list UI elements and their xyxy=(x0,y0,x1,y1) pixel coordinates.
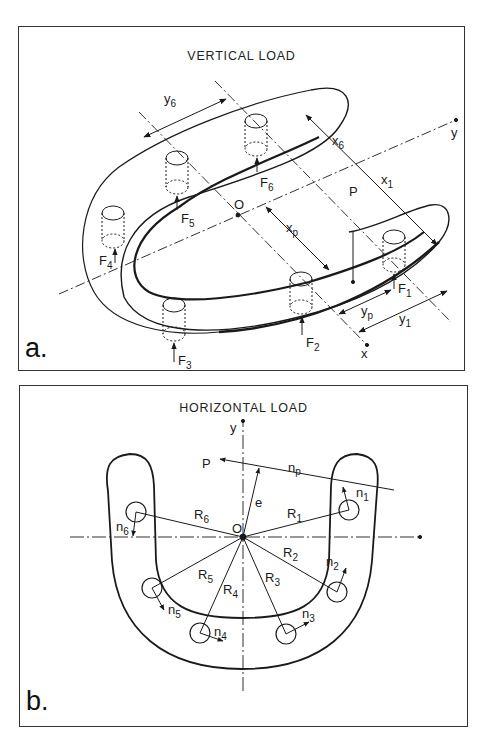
label-r2: R2 xyxy=(283,545,298,563)
label-origin: O xyxy=(234,197,244,212)
label-f6: F6 xyxy=(260,175,274,193)
label-n4: n4 xyxy=(214,624,227,642)
shoe-inner-edge xyxy=(134,137,424,299)
label-f4: F4 xyxy=(99,253,113,271)
label-r4: R4 xyxy=(223,582,238,600)
label-xp: xp xyxy=(286,220,299,238)
label-n6: n6 xyxy=(116,519,129,537)
label-p: P xyxy=(349,184,358,199)
shoe-outer-top xyxy=(83,90,311,333)
panel-b-letter: b. xyxy=(26,686,49,717)
normal-n1 xyxy=(343,487,349,510)
label-origin: O xyxy=(232,521,242,536)
label-r1: R1 xyxy=(287,506,302,524)
label-yp: yp xyxy=(361,303,374,321)
label-n3: n3 xyxy=(302,606,315,624)
label-f3: F3 xyxy=(178,353,192,371)
label-r5: R5 xyxy=(198,567,213,585)
label-p: P xyxy=(202,456,211,471)
dim-x1 xyxy=(371,179,437,245)
pin-4 xyxy=(102,206,124,248)
normal-n6 xyxy=(133,512,136,536)
vertical-load-diagram: y6 x6 x1 xp yp y1 P O y x F6 F5 F4 F3 F2… xyxy=(19,27,466,372)
dim-xp xyxy=(266,207,329,270)
origin-point xyxy=(236,213,240,217)
label-y-axis: y xyxy=(230,420,237,435)
f6-f1-line xyxy=(215,81,451,322)
pin-3 xyxy=(163,298,185,341)
pin-6 xyxy=(245,114,267,156)
horizontal-load-diagram: y P np e O R1 R2 R3 R4 R5 R6 n1 n2 n3 n4… xyxy=(20,386,469,728)
label-y6: y6 xyxy=(164,91,177,109)
label-f2: F2 xyxy=(306,335,320,353)
normal-n5 xyxy=(152,588,164,610)
label-r6: R6 xyxy=(194,507,209,525)
label-e: e xyxy=(255,495,262,510)
panel-a-letter: a. xyxy=(25,333,48,364)
load-line-np xyxy=(220,459,394,490)
radius-r6 xyxy=(136,512,243,537)
label-x1: x1 xyxy=(381,172,394,190)
panel-horizontal-load: HORIZONTAL LOAD xyxy=(19,385,468,727)
label-n1: n1 xyxy=(356,485,369,503)
label-r3: R3 xyxy=(265,570,280,588)
panel-vertical-load: VERTICAL LOAD xyxy=(18,26,465,371)
pin-2 xyxy=(290,272,312,314)
label-y1: y1 xyxy=(399,311,412,329)
label-y-axis: y xyxy=(451,125,458,140)
pin-5 xyxy=(166,151,188,194)
label-f5: F5 xyxy=(181,211,195,229)
label-x-axis: x xyxy=(361,346,368,361)
label-np: np xyxy=(288,460,301,477)
label-x6: x6 xyxy=(332,133,345,151)
label-f1: F1 xyxy=(398,281,412,299)
normal-n3 xyxy=(286,622,309,634)
